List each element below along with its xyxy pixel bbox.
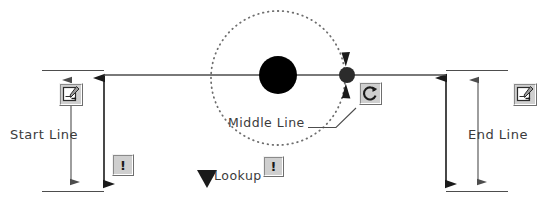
rotate-refresh-icon[interactable] bbox=[359, 82, 382, 105]
middle-line-label: Middle Line bbox=[228, 115, 305, 130]
rotate-refresh-glyph bbox=[361, 84, 380, 103]
warning-exclamation-glyph: ! bbox=[120, 158, 126, 171]
warning-exclamation-glyph: ! bbox=[271, 160, 277, 173]
edit-page-icon[interactable] bbox=[513, 83, 537, 106]
edit-page-icon-inner bbox=[514, 84, 536, 105]
end-line-label: End Line bbox=[468, 127, 528, 142]
warning-exclamation-icon[interactable]: ! bbox=[263, 156, 284, 177]
edit-page-glyph bbox=[515, 85, 535, 104]
satellite-node bbox=[339, 67, 355, 83]
diagram-canvas: Start Line End Line Middle Line Lookup bbox=[0, 0, 548, 207]
lookup-label: Lookup bbox=[214, 168, 262, 183]
edit-page-icon[interactable] bbox=[59, 83, 83, 106]
rotate-refresh-icon-inner bbox=[360, 83, 381, 104]
warning-exclamation-icon-inner: ! bbox=[113, 155, 133, 175]
center-body-circle bbox=[259, 56, 297, 94]
edit-page-icon-inner bbox=[60, 84, 82, 105]
middle-line-leader bbox=[308, 108, 356, 128]
warning-exclamation-icon-inner: ! bbox=[264, 157, 283, 176]
start-line-label: Start Line bbox=[10, 127, 78, 142]
edit-page-glyph bbox=[61, 85, 81, 104]
warning-exclamation-icon[interactable]: ! bbox=[112, 154, 134, 176]
